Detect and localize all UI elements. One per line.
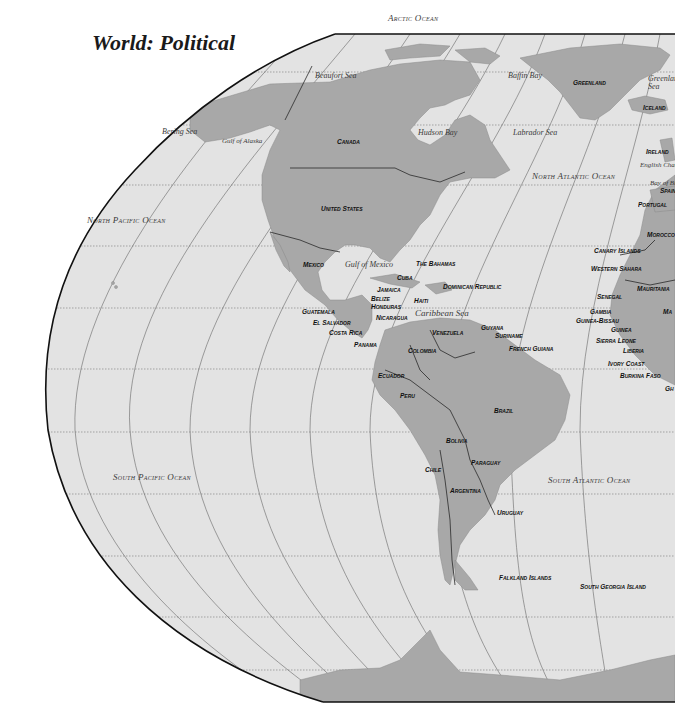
country-label: Venezuela bbox=[432, 330, 463, 337]
ocean-label-north-pacific: North Pacific Ocean bbox=[87, 216, 166, 225]
country-label: Gambia bbox=[590, 309, 611, 316]
sea-label-labrador: Labrador Sea bbox=[513, 129, 557, 137]
country-label: Brazil bbox=[494, 408, 513, 415]
country-label: South Georgia Island bbox=[580, 584, 646, 591]
country-label: Falkland Islands bbox=[499, 575, 551, 582]
country-label: United States bbox=[321, 206, 362, 213]
country-label: Chile bbox=[425, 467, 441, 474]
sea-label-baffin: Baffin Bay bbox=[508, 72, 542, 80]
country-label: Guinea-Bissau bbox=[576, 318, 619, 325]
ocean-label-north-atlantic: North Atlantic Ocean bbox=[532, 172, 615, 181]
country-label: Guinea bbox=[611, 327, 632, 334]
country-label: Paraguay bbox=[471, 460, 500, 467]
country-label: Iceland bbox=[643, 105, 666, 112]
country-label: French Guiana bbox=[509, 346, 553, 353]
country-label: Jamaica bbox=[377, 287, 401, 294]
country-label: Colombia bbox=[408, 348, 436, 355]
sea-label-caribbean: Caribbean Sea bbox=[415, 309, 469, 318]
country-label: Uruguay bbox=[497, 510, 523, 517]
country-label: Ecuador bbox=[378, 373, 404, 380]
sea-label-bering: Bering Sea bbox=[162, 128, 197, 136]
country-label: Suriname bbox=[495, 333, 523, 340]
country-label: Burkina Faso bbox=[620, 373, 661, 380]
sea-label-bay-of-biscay: Bay of Biscay bbox=[650, 180, 675, 187]
country-label: Canary Islands bbox=[594, 248, 641, 255]
sea-label-gulf-of-alaska: Gulf of Alaska bbox=[222, 138, 262, 145]
country-label: Canada bbox=[337, 139, 360, 146]
ocean-label-arctic: Arctic Ocean bbox=[388, 14, 438, 23]
country-label: Nicaragua bbox=[376, 315, 408, 322]
country-label: Belize bbox=[371, 296, 390, 303]
country-label: Guyana bbox=[481, 325, 503, 332]
sea-label-hudson-bay: Hudson Bay bbox=[418, 129, 457, 137]
country-label: Haiti bbox=[414, 298, 428, 305]
country-label: Ivory Coast bbox=[608, 361, 644, 368]
country-label: Mexico bbox=[303, 262, 324, 269]
country-label: Dominican Republic bbox=[443, 284, 501, 291]
country-label: Cuba bbox=[397, 275, 413, 282]
country-label: Guatemala bbox=[302, 309, 335, 316]
country-label: Costa Rica bbox=[329, 330, 362, 337]
country-label: Spain bbox=[660, 188, 675, 195]
sea-label-beaufort: Beaufort Sea bbox=[315, 72, 357, 80]
ocean-label-south-pacific: South Pacific Ocean bbox=[113, 473, 191, 482]
country-label: Bolivia bbox=[446, 438, 467, 445]
sea-label-gulf-of-mexico: Gulf of Mexico bbox=[345, 261, 393, 269]
country-label: Peru bbox=[400, 393, 415, 400]
map-title: World: Political bbox=[92, 30, 235, 56]
country-label: Morocco bbox=[647, 232, 675, 239]
sea-label-greenland: Greenland Sea bbox=[648, 75, 675, 91]
country-label: Gh bbox=[665, 386, 674, 393]
country-label: Ireland bbox=[646, 149, 669, 156]
country-label: Sierra Leone bbox=[596, 338, 636, 345]
sea-label-english-channel: English Channel bbox=[640, 162, 675, 169]
country-label: Mauritania bbox=[637, 286, 675, 293]
country-label: Senegal bbox=[597, 294, 622, 301]
country-label: Argentina bbox=[450, 488, 481, 495]
country-label: El Salvador bbox=[313, 320, 351, 327]
country-label: Panama bbox=[354, 342, 377, 349]
country-label: Portugal bbox=[638, 202, 675, 209]
country-label: Honduras bbox=[371, 304, 401, 311]
country-label: Liberia bbox=[623, 348, 644, 355]
country-label: Ma bbox=[663, 309, 672, 316]
country-label: Greenland bbox=[573, 80, 606, 87]
ocean-label-south-atlantic: South Atlantic Ocean bbox=[548, 476, 630, 485]
map-canvas bbox=[0, 0, 675, 727]
country-label: Western Sahara bbox=[591, 266, 642, 273]
country-label: The Bahamas bbox=[416, 261, 455, 268]
